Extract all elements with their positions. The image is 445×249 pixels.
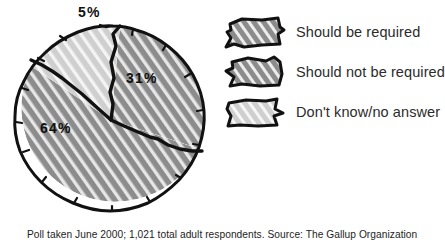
legend-label-should-be-required: Should be required <box>296 24 420 40</box>
pie-label-should: 64% <box>40 120 72 136</box>
legend-item-should-be-required[interactable]: Should be required <box>222 12 436 52</box>
swatch-dark-hatch-icon <box>222 14 288 50</box>
swatch-dark-hatch-icon <box>222 54 288 90</box>
pie-label-dont-know: 5% <box>78 4 101 20</box>
legend-item-dont-know[interactable]: Don't know/no answer <box>222 92 436 132</box>
legend-label-dont-know: Don't know/no answer <box>296 104 440 120</box>
pie-label-should-not: 31% <box>126 70 158 86</box>
legend: Should be required Should not be require… <box>222 12 436 140</box>
swatch-light-hatch-icon <box>222 94 288 130</box>
pie-svg <box>0 0 225 225</box>
source-caption: Poll taken June 2000; 1,021 total adult … <box>27 228 427 241</box>
pie-chart-plot: 5% 31% 64% <box>0 0 225 225</box>
legend-label-should-not-be-required: Should not be required <box>296 64 445 80</box>
legend-item-should-not-be-required[interactable]: Should not be required <box>222 52 436 92</box>
